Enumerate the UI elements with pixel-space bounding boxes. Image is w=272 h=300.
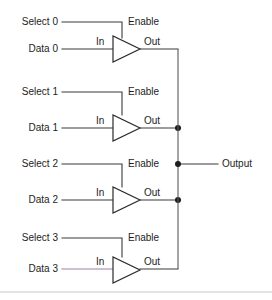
enable-label-3: Enable [128, 232, 160, 243]
tristate-buffer-0 [113, 36, 140, 62]
out-label-2: Out [144, 187, 160, 198]
tristate-buffer-1 [113, 115, 140, 141]
select-label-0: Select 0 [22, 16, 59, 27]
data-label-3: Data 3 [29, 263, 59, 274]
select-wire-3 [62, 238, 122, 257]
buffer-stage-1: Select 1 Data 1 Enable In Out [22, 86, 181, 141]
select-label-3: Select 3 [22, 232, 59, 243]
select-wire-2 [62, 164, 122, 187]
data-label-0: Data 0 [29, 43, 59, 54]
data-label-1: Data 1 [29, 122, 59, 133]
enable-label-0: Enable [128, 16, 160, 27]
buffer-stage-3: Select 3 Data 3 Enable In Out [22, 232, 178, 283]
bus-junction-output [175, 161, 181, 167]
out-label-0: Out [144, 36, 160, 47]
in-label-3: In [96, 256, 104, 267]
tristate-buffer-3 [113, 257, 140, 283]
out-label-3: Out [144, 256, 160, 267]
enable-label-2: Enable [128, 158, 160, 169]
in-label-2: In [96, 187, 104, 198]
select-wire-1 [62, 92, 122, 115]
in-label-0: In [96, 36, 104, 47]
buffer-stage-0: Select 0 Data 0 Enable In Out [22, 16, 178, 62]
buffer-stage-2: Select 2 Data 2 Enable In Out [22, 158, 181, 213]
circuit-canvas: Select 0 Data 0 Enable In Out Select 1 D… [0, 0, 272, 300]
enable-label-1: Enable [128, 86, 160, 97]
in-label-1: In [96, 115, 104, 126]
select-label-1: Select 1 [22, 86, 59, 97]
select-label-2: Select 2 [22, 158, 59, 169]
tristate-buffer-2 [113, 187, 140, 213]
output-label: Output [222, 158, 252, 169]
data-label-2: Data 2 [29, 194, 59, 205]
circuit-diagram: Select 0 Data 0 Enable In Out Select 1 D… [0, 0, 272, 300]
out-label-1: Out [144, 115, 160, 126]
